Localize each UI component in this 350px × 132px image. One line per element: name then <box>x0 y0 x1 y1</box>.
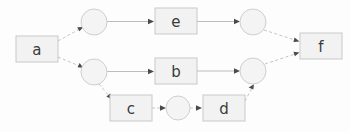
edge-a-to-circle2 <box>58 57 84 68</box>
node-b[interactable]: b <box>155 58 197 84</box>
node-circle-1[interactable] <box>81 9 107 35</box>
node-c-label: c <box>127 100 135 118</box>
edge-e-to-circle4 <box>197 19 240 25</box>
node-a[interactable]: a <box>16 36 58 62</box>
edge-circle2-to-b <box>107 69 154 75</box>
node-e[interactable]: e <box>155 8 197 34</box>
node-layer: a e b c <box>16 8 342 121</box>
edge-circle3-to-d <box>190 105 202 111</box>
node-circle-2[interactable] <box>81 59 107 85</box>
node-b-label: b <box>171 63 181 81</box>
node-circle-3[interactable] <box>166 96 190 120</box>
node-f[interactable]: f <box>300 33 342 59</box>
edge-circle5-to-f <box>265 52 300 64</box>
node-f-label: f <box>318 38 324 56</box>
edge-c-to-circle3 <box>152 105 166 111</box>
node-e-label: e <box>171 13 180 31</box>
diagram-canvas: a e b c <box>0 0 350 132</box>
node-c[interactable]: c <box>110 95 152 121</box>
edge-circle4-to-f <box>264 30 300 42</box>
edge-d-to-circle5 <box>245 84 254 101</box>
edge-b-to-circle5 <box>197 68 240 74</box>
edge-a-to-circle1 <box>58 27 84 41</box>
graph-svg: a e b c <box>0 0 350 132</box>
edge-circle1-to-e <box>107 19 154 25</box>
node-a-label: a <box>32 41 41 59</box>
node-circle-4[interactable] <box>240 9 266 35</box>
node-d[interactable]: d <box>203 95 245 121</box>
node-circle-5[interactable] <box>240 58 266 84</box>
node-d-label: d <box>219 100 229 118</box>
